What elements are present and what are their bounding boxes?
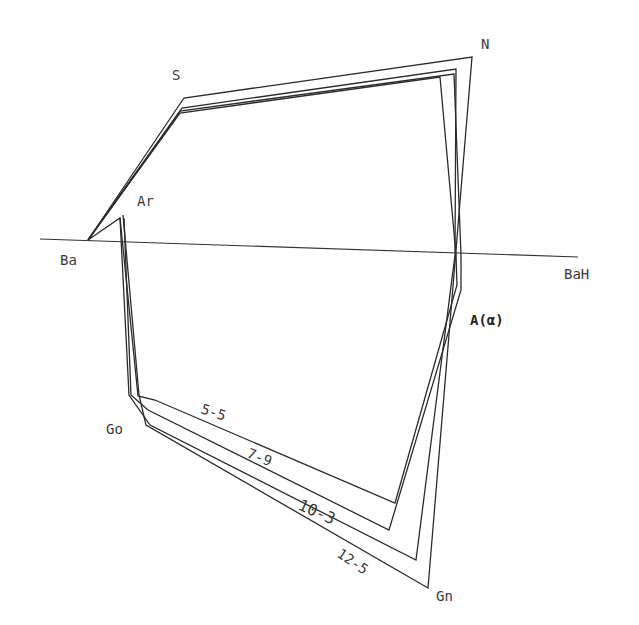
landmark-gn-label: Gn — [436, 588, 453, 604]
landmark-bah-label: BaH — [564, 266, 589, 282]
tracing-12-5 — [88, 57, 472, 588]
stage-label-12-5: 12-5 — [334, 545, 371, 577]
tracing-10-3 — [88, 69, 456, 560]
tracing-7-9 — [88, 74, 461, 530]
landmark-ba-label: Ba — [60, 252, 77, 268]
landmark-go-label: Go — [106, 421, 123, 437]
tracing-5-5 — [88, 77, 457, 503]
landmark-a-label: A(α) — [470, 312, 504, 328]
cephalometric-diagram: S N Ar Ba BaH A(α) Go Gn 5-5 7-9 10-3 12… — [0, 0, 639, 625]
stage-label-7-9: 7-9 — [245, 445, 274, 469]
landmark-ar-label: Ar — [137, 193, 154, 209]
landmark-n-label: N — [481, 36, 489, 52]
landmark-s-label: S — [172, 67, 180, 83]
